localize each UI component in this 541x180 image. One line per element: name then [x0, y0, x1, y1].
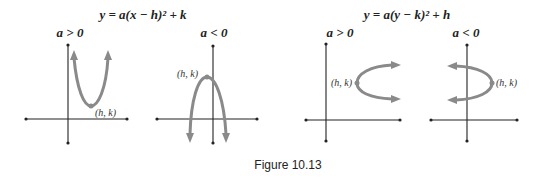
panel-opens-down: a < 0 (h, k) [155, 25, 258, 145]
equation-vertical-parabola: y = a(x − h)² + k [97, 7, 187, 22]
axis-end-dot [324, 139, 327, 142]
axis-end-dot [324, 42, 327, 45]
arrow-head-icon [104, 50, 112, 60]
axis-end-dot [24, 117, 27, 120]
axis-end-dot [125, 117, 128, 120]
parabola-figure: y = a(x − h)² + k y = a(y − k)² + h a > … [0, 0, 541, 180]
panel-opens-up: a > 0 (h, k) [24, 25, 128, 145]
arrow-head-icon [391, 61, 401, 69]
condition-label: a < 0 [201, 25, 228, 40]
panel-opens-right: a > 0 (h, k) [304, 25, 401, 143]
axis-end-dot [155, 117, 158, 120]
axis-end-dot [66, 43, 69, 46]
arrow-head-icon [222, 133, 230, 143]
vertex-label: (h, k) [177, 68, 199, 80]
parabola-curve [74, 58, 108, 106]
axis-end-dot [465, 43, 468, 46]
vertex-point [490, 81, 495, 86]
arrow-head-icon [70, 50, 78, 60]
panel-opens-left: a < 0 (h, k) [429, 25, 518, 143]
vertex-label: (h, k) [95, 107, 117, 119]
condition-label: a > 0 [57, 25, 84, 40]
figure-caption: Figure 10.13 [254, 158, 322, 172]
parabola-curve [357, 65, 392, 99]
axis-end-dot [429, 118, 432, 121]
axis-end-dot [255, 117, 258, 120]
vertex-label: (h, k) [331, 77, 353, 89]
arrow-head-icon [391, 95, 401, 103]
condition-label: a > 0 [327, 25, 354, 40]
vertex-point [355, 81, 360, 86]
vertex-label: (h, k) [496, 77, 518, 89]
arrow-head-icon [447, 96, 457, 104]
condition-label: a < 0 [453, 25, 480, 40]
axis-end-dot [211, 141, 214, 144]
vertex-point [89, 104, 94, 109]
axis-end-dot [465, 139, 468, 142]
arrow-head-icon [186, 133, 194, 143]
vertex-point [205, 75, 210, 80]
parabola-curve [456, 66, 492, 100]
arrow-head-icon [447, 62, 457, 70]
axis-end-dot [66, 141, 69, 144]
axis-end-dot [398, 118, 401, 121]
equation-horizontal-parabola: y = a(y − k)² + h [362, 7, 451, 22]
axis-end-dot [211, 44, 214, 47]
axis-end-dot [304, 118, 307, 121]
parabola-curve [190, 77, 226, 134]
axis-end-dot [515, 118, 518, 121]
